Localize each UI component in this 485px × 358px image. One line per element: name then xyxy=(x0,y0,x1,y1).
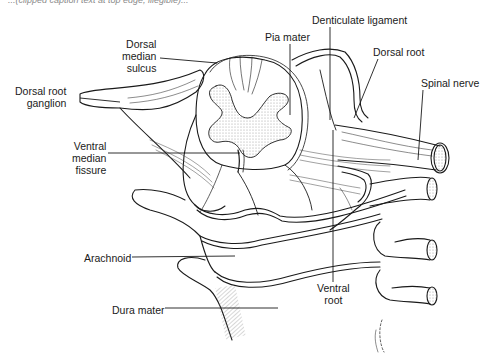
nerve-stump-2 xyxy=(374,222,430,260)
nerve-stump-1 xyxy=(370,177,430,184)
label-ventral-median-fissure: Ventral median fissure xyxy=(72,140,106,176)
label-dura-mater: Dura mater xyxy=(112,304,165,316)
label-ventral-root: Ventral root xyxy=(317,282,350,306)
anatomy-figure: ...(clipped caption text at top edge, il… xyxy=(0,0,485,358)
spinal-nerve-tube xyxy=(335,125,440,146)
label-pia-mater: Pia mater xyxy=(265,31,310,43)
label-arachnoid: Arachnoid xyxy=(84,252,131,264)
grey-matter xyxy=(209,85,292,158)
label-denticulate-ligament: Denticulate ligament xyxy=(312,14,407,26)
label-dorsal-root-ganglion: Dorsal root ganglion xyxy=(15,85,66,109)
label-dorsal-median-sulcus: Dorsal median sulcus xyxy=(122,38,156,74)
leader-arachnoid xyxy=(132,256,235,257)
leader-spinal-nerve xyxy=(418,90,423,160)
leader-dorsal-median-sulcus xyxy=(160,58,217,63)
dorsal-root-ganglion-shape xyxy=(80,70,204,110)
label-dorsal-root: Dorsal root xyxy=(373,46,424,58)
leader-dorsal-root xyxy=(354,59,378,118)
leader-dorsal-root-ganglion xyxy=(80,98,120,102)
label-spinal-nerve: Spinal nerve xyxy=(421,77,479,89)
